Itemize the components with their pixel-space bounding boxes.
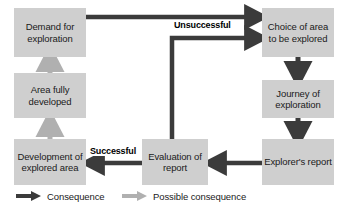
node-label: Evaluation of report (144, 151, 206, 174)
node-area-fully-developed[interactable]: Area fully developed (14, 73, 86, 118)
legend: Consequence Possible consequence (0, 188, 342, 210)
node-label: Explorer's report (264, 156, 332, 168)
legend-item-possible-consequence: Possible consequence (122, 190, 246, 202)
node-development-of-explored-area[interactable]: Development of explored area (14, 139, 86, 185)
flow-chart-diagram: Demand for exploration Choice of area to… (0, 0, 342, 210)
edge-label-unsuccessful: Unsuccessful (174, 20, 231, 30)
node-label: Choice of area to be explored (264, 21, 332, 44)
node-demand-for-exploration[interactable]: Demand for exploration (14, 8, 86, 57)
light-arrow-icon (122, 190, 148, 202)
node-explorers-report[interactable]: Explorer's report (262, 139, 334, 185)
node-journey-of-exploration[interactable]: Journey of exploration (262, 80, 334, 118)
node-choice-of-area[interactable]: Choice of area to be explored (262, 8, 334, 57)
node-label: Journey of exploration (264, 88, 332, 111)
legend-label: Possible consequence (153, 191, 246, 202)
node-label: Area fully developed (16, 84, 84, 107)
node-label: Demand for exploration (16, 21, 84, 44)
edge-label-successful: Successful (90, 146, 136, 156)
legend-label: Consequence (47, 191, 105, 202)
legend-item-consequence: Consequence (16, 190, 105, 202)
node-evaluation-of-report[interactable]: Evaluation of report (142, 139, 208, 185)
edge-evaluation-to-choice-unsuccessful (172, 38, 254, 139)
node-label: Development of explored area (16, 151, 84, 174)
dark-arrow-icon (16, 190, 42, 202)
